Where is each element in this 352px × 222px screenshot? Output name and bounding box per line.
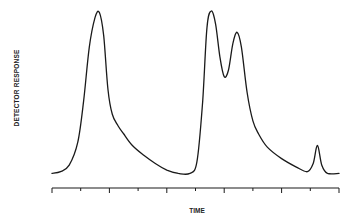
chromatogram-chart [0, 0, 352, 222]
x-axis-label: TIME [189, 207, 205, 214]
x-axis [52, 188, 339, 193]
y-axis-label: DETECTOR RESPONSE [13, 50, 20, 127]
chromatogram-trace [52, 11, 339, 174]
